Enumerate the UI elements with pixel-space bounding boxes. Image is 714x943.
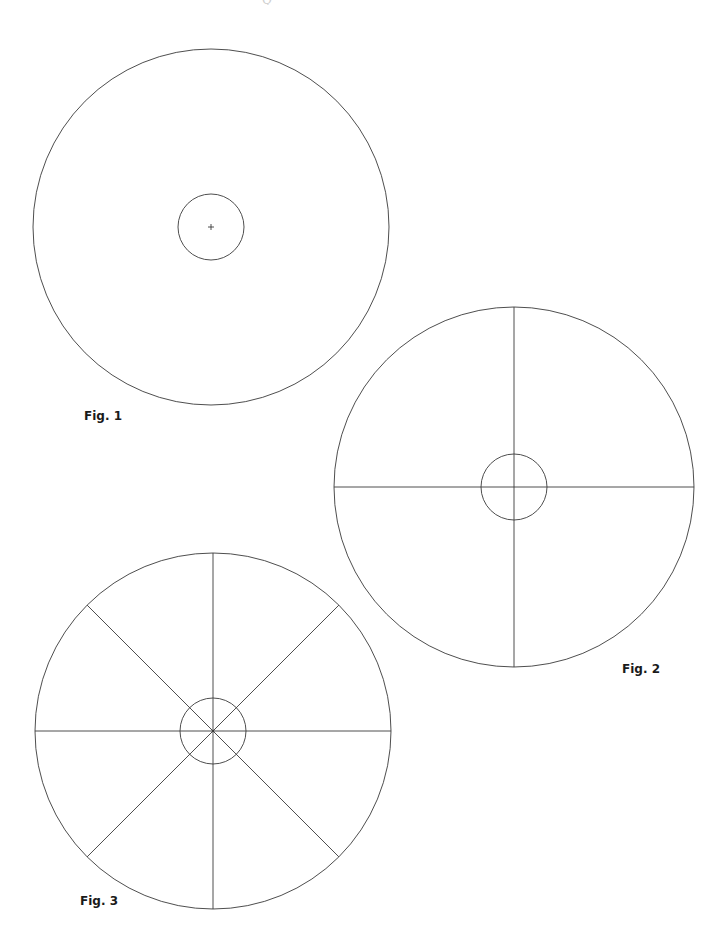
figure-1-circle-diagram [33,49,389,405]
figure-3-eighths-circle-diagram [35,553,391,909]
figure-1-label: Fig. 1 [84,409,122,423]
figures-canvas [0,0,714,943]
figure-2-quartered-circle-diagram [334,307,694,667]
figure-2-label: Fig. 2 [622,662,660,676]
center-dot [212,730,215,733]
figure-3-label: Fig. 3 [80,894,118,908]
